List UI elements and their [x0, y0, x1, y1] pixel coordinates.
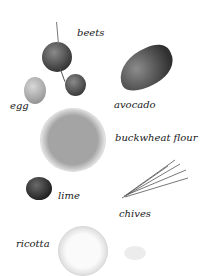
partial-item-image — [124, 246, 146, 260]
avocado-label: avocado — [114, 99, 156, 110]
beet-image-small — [65, 74, 86, 96]
lime-image — [26, 177, 52, 200]
avocado-image — [112, 38, 180, 97]
egg-label: egg — [10, 100, 29, 111]
chives-label: chives — [119, 208, 151, 219]
beet-image-large — [42, 42, 72, 72]
ricotta-label: ricotta — [16, 238, 50, 249]
chives-image — [120, 158, 190, 200]
beets-label: beets — [77, 27, 104, 38]
buckwheat-flour-label: buckwheat flour — [115, 132, 198, 143]
lime-label: lime — [58, 190, 80, 201]
buckwheat-flour-image — [40, 108, 106, 172]
ricotta-image — [58, 226, 108, 276]
beet-stem — [56, 22, 59, 44]
